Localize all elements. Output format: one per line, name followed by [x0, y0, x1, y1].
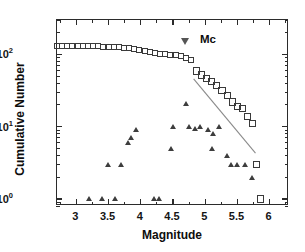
- x-minor-tick: [124, 19, 125, 23]
- x-minor-tick: [221, 202, 222, 206]
- x-tick-4: [140, 199, 141, 205]
- x-tick-3: [76, 19, 77, 25]
- y-minor-tick: [285, 32, 289, 33]
- data-point-incremental: [105, 162, 111, 167]
- data-point-incremental: [128, 135, 134, 140]
- data-point-incremental: [118, 162, 124, 167]
- data-point-cumulative: [249, 120, 256, 127]
- x-tick-4.5: [172, 19, 173, 25]
- y-minor-tick: [56, 164, 60, 165]
- y-minor-tick: [56, 70, 60, 71]
- y-tick-label-1e2: 102: [0, 47, 13, 61]
- mc-down-triangle-icon: [181, 38, 189, 45]
- y-minor-tick: [285, 76, 289, 77]
- chart-figure: Mc Magnitude Cumulative Number 33.544.55…: [0, 0, 305, 252]
- y-minor-tick: [56, 148, 60, 149]
- data-point-incremental: [210, 131, 216, 136]
- y-minor-tick: [285, 148, 289, 149]
- y-minor-tick: [285, 142, 289, 143]
- data-point-cumulative: [257, 195, 264, 202]
- data-point-cumulative: [253, 161, 260, 168]
- y-minor-tick: [285, 61, 289, 62]
- x-minor-tick: [60, 202, 61, 206]
- x-tick-6: [269, 19, 270, 25]
- y-minor-tick: [285, 130, 289, 131]
- x-tick-4.5: [172, 199, 173, 205]
- data-point-incremental: [242, 162, 248, 167]
- data-point-incremental: [183, 101, 189, 106]
- x-tick-5: [205, 19, 206, 25]
- y-minor-tick: [285, 137, 289, 138]
- x-tick-label-3: 3: [72, 210, 78, 222]
- data-point-cumulative: [244, 113, 251, 120]
- x-tick-5.5: [237, 19, 238, 25]
- y-axis-title: Cumulative Number: [13, 39, 27, 199]
- data-point-incremental: [228, 162, 234, 167]
- x-minor-tick: [124, 202, 125, 206]
- data-point-incremental: [99, 196, 105, 201]
- y-minor-tick: [56, 155, 60, 156]
- x-minor-tick: [221, 19, 222, 23]
- y-minor-tick: [285, 177, 289, 178]
- data-point-incremental: [249, 175, 255, 180]
- y-tick-1e1: [56, 126, 62, 127]
- y-minor-tick: [56, 137, 60, 138]
- x-tick-5.5: [237, 199, 238, 205]
- data-point-cumulative: [239, 105, 246, 112]
- x-tick-3.5: [108, 199, 109, 205]
- x-minor-tick: [92, 19, 93, 23]
- y-tick-label-1e0: 100: [0, 191, 13, 205]
- y-tick-label-1e1: 101: [0, 119, 13, 133]
- y-minor-tick: [56, 104, 60, 105]
- y-tick-1e0: [282, 198, 288, 199]
- y-minor-tick: [56, 177, 60, 178]
- x-tick-label-5: 5: [201, 210, 207, 222]
- y-minor-tick: [285, 83, 289, 84]
- y-minor-tick: [285, 206, 289, 207]
- data-point-incremental: [112, 196, 118, 201]
- y-tick-1e2: [56, 54, 62, 55]
- y-minor-tick: [285, 20, 289, 21]
- y-minor-tick: [56, 142, 60, 143]
- y-tick-1e1: [282, 126, 288, 127]
- x-tick-5: [205, 199, 206, 205]
- x-minor-tick: [253, 19, 254, 23]
- x-axis-title: Magnitude: [56, 228, 288, 242]
- x-tick-label-4: 4: [137, 210, 143, 222]
- x-minor-tick: [189, 19, 190, 23]
- y-minor-tick: [285, 133, 289, 134]
- y-minor-tick: [56, 57, 60, 58]
- y-minor-tick: [285, 202, 289, 203]
- y-minor-tick: [285, 57, 289, 58]
- y-minor-tick: [56, 133, 60, 134]
- data-point-incremental: [197, 124, 203, 129]
- data-point-incremental: [168, 146, 174, 151]
- data-point-incremental: [156, 196, 162, 201]
- data-point-incremental: [86, 196, 92, 201]
- x-minor-tick: [156, 19, 157, 23]
- data-point-incremental: [234, 162, 240, 167]
- data-point-cumulative: [188, 57, 194, 63]
- x-tick-3: [76, 199, 77, 205]
- x-minor-tick: [92, 202, 93, 206]
- x-minor-tick: [189, 202, 190, 206]
- y-minor-tick: [56, 92, 60, 93]
- y-tick-1e2: [282, 54, 288, 55]
- y-minor-tick: [56, 20, 60, 21]
- y-minor-tick: [285, 104, 289, 105]
- mc-label: Mc: [200, 33, 216, 45]
- x-tick-label-5.5: 5.5: [229, 210, 244, 222]
- data-point-incremental: [216, 124, 222, 129]
- y-minor-tick: [56, 76, 60, 77]
- data-point-incremental: [209, 146, 215, 151]
- x-tick-label-6: 6: [266, 210, 272, 222]
- y-minor-tick: [56, 65, 60, 66]
- x-tick-3.5: [108, 19, 109, 25]
- y-minor-tick: [285, 164, 289, 165]
- y-minor-tick: [285, 92, 289, 93]
- x-tick-label-3.5: 3.5: [100, 210, 115, 222]
- data-point-incremental: [133, 127, 139, 132]
- y-minor-tick: [56, 32, 60, 33]
- y-minor-tick: [285, 155, 289, 156]
- y-minor-tick: [56, 130, 60, 131]
